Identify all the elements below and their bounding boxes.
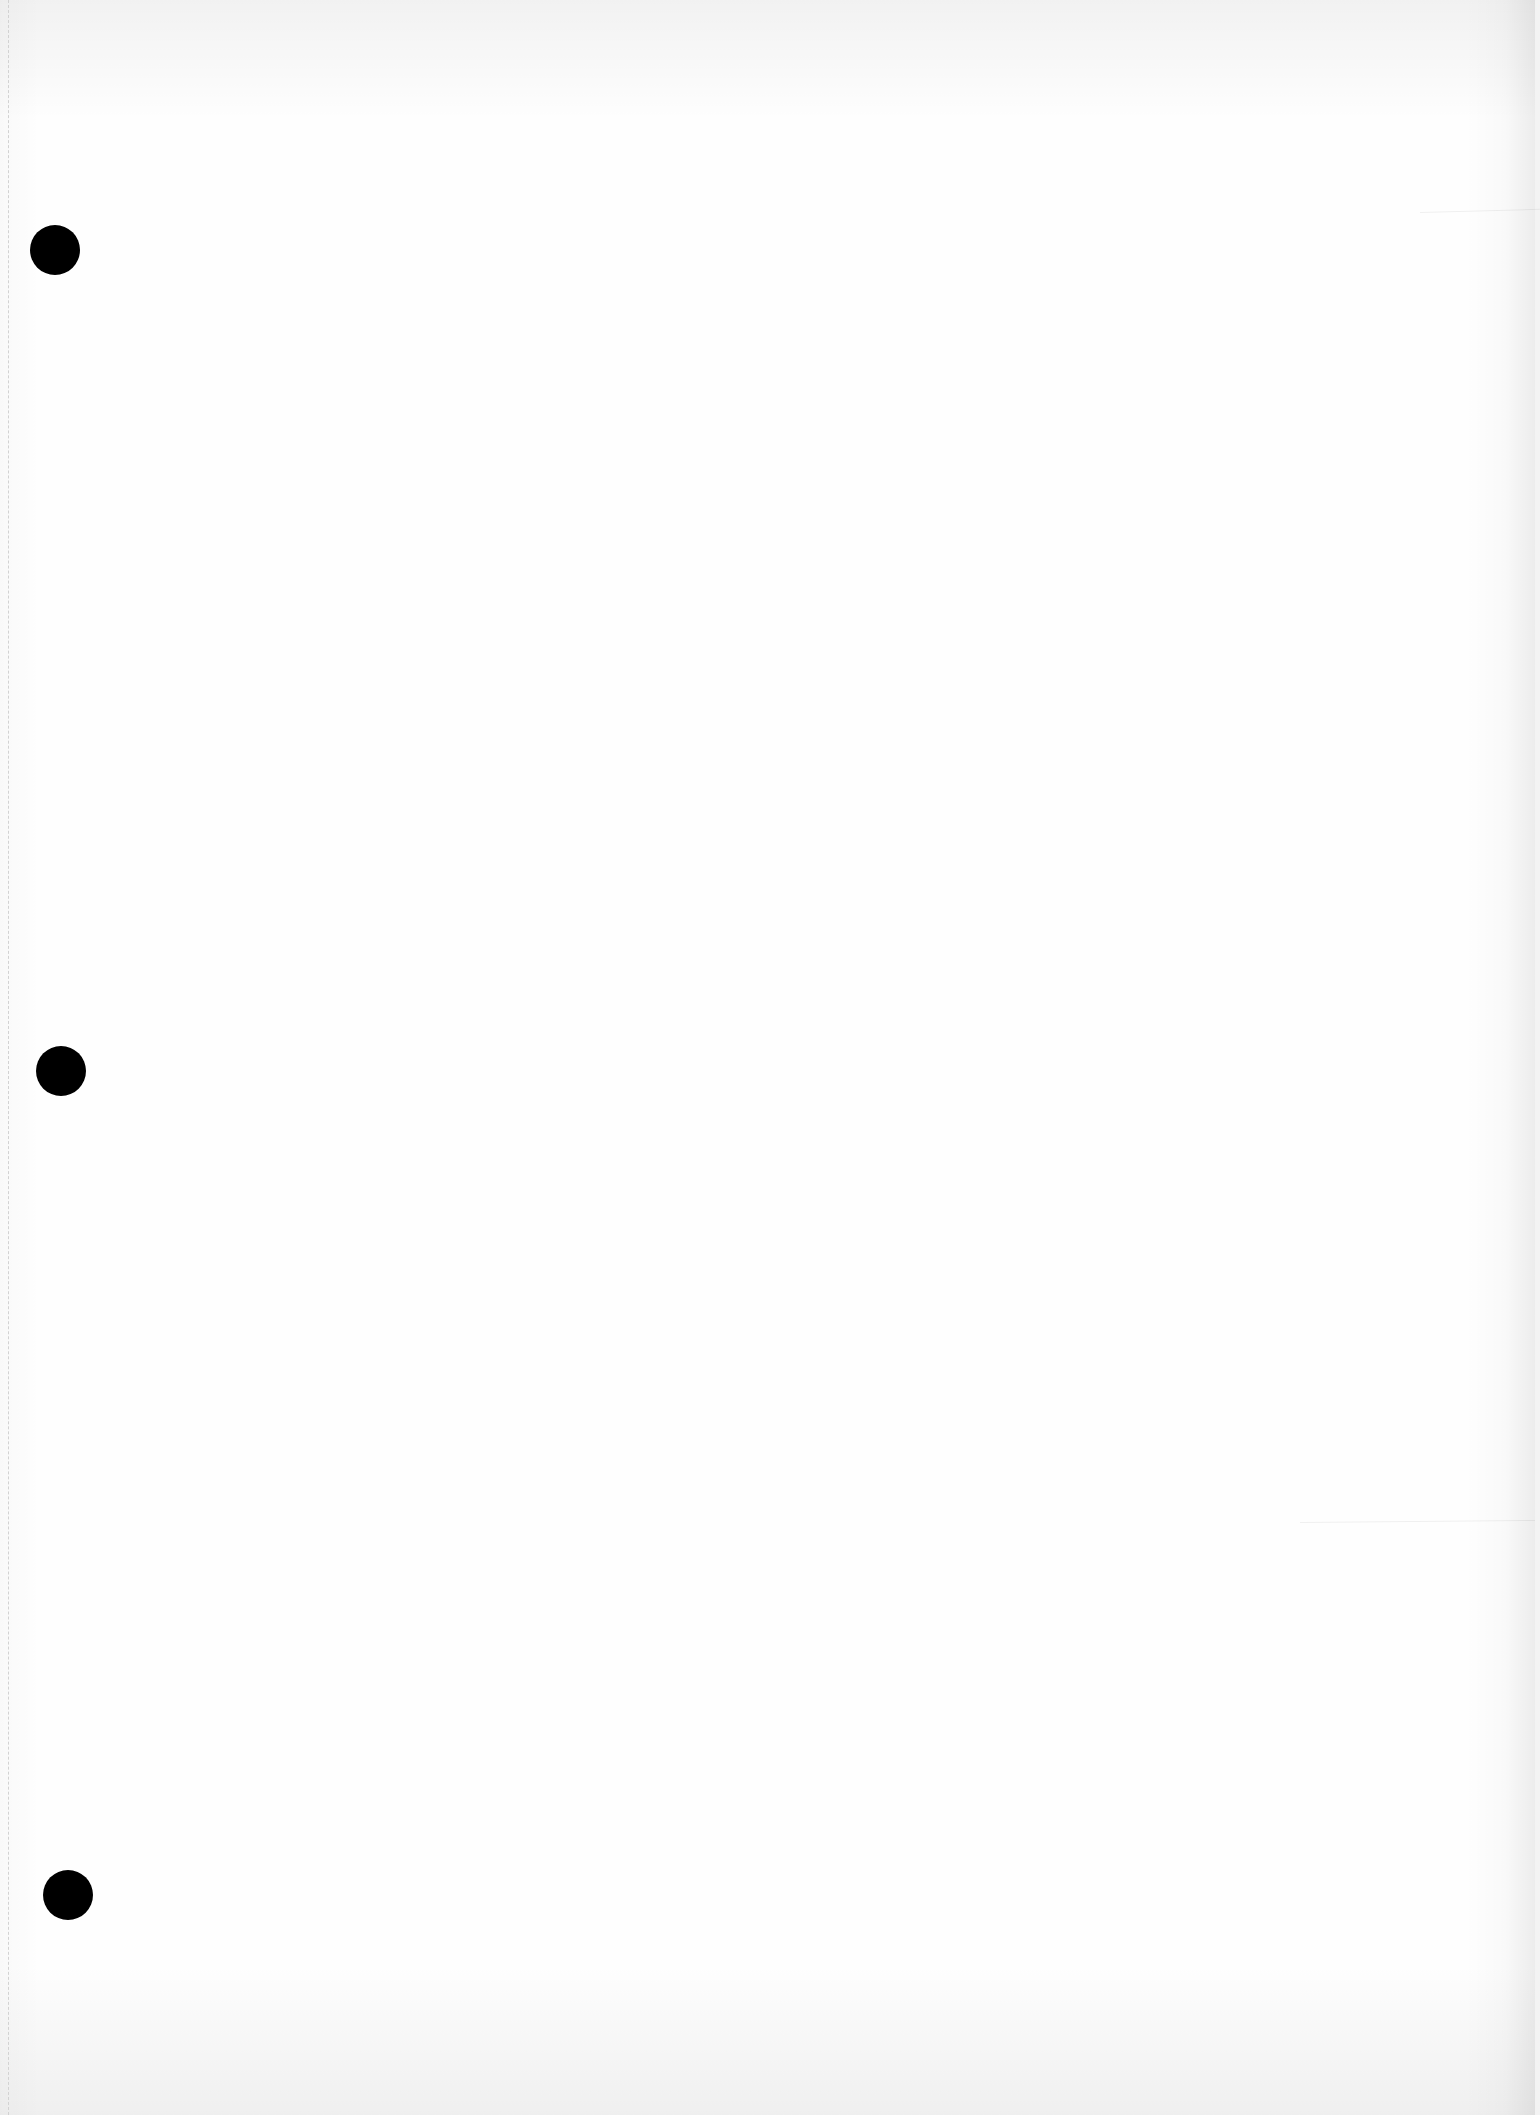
left-perforation-line [8,0,9,2115]
punch-hole-bottom [43,1870,93,1920]
punch-hole-middle [36,1046,86,1096]
paper-crease-top-right [1420,209,1540,213]
sheet-content-text [0,0,1,1]
paper-crease-lower-right [1300,1520,1535,1523]
punch-hole-top [30,225,80,275]
